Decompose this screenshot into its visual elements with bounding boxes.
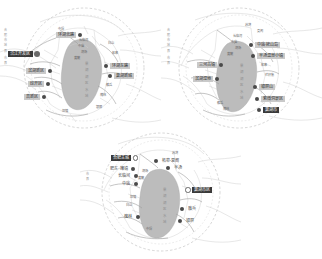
edge-note: 合 肥 市 域 界	[4, 28, 7, 52]
panel-b-label-3[interactable]: 滨湖湿地	[193, 76, 219, 82]
place-name: 长临河	[233, 35, 242, 38]
edge-note: 市 界	[86, 172, 89, 181]
place-name: 中庙	[78, 45, 84, 48]
edge-note: 市 界	[167, 56, 170, 65]
marker-dot-icon	[134, 182, 138, 186]
marker-dot-icon	[180, 207, 184, 211]
panel-a-label-5-text: 巢湖新城	[114, 73, 134, 79]
panel-c-highlight-label[interactable]: 合肥主城	[111, 155, 138, 161]
lake-name-label: 巢 湖 湖 区 水 域	[84, 62, 87, 99]
panel-a-label-4[interactable]: 环湖东路	[104, 63, 130, 69]
marker-dot-icon	[42, 95, 46, 99]
place-name: 散兵	[217, 102, 223, 105]
panel-a-label-2[interactable]: 经开区	[28, 81, 50, 87]
panel-b-label-0-text: 中庙·姥山岛	[255, 42, 281, 48]
place-name: 烔炀	[142, 170, 148, 173]
panel-c-label-3[interactable]: 中庙	[120, 181, 138, 187]
lake-name-label: 巢 湖 湖 区 水 域	[239, 64, 242, 101]
panel-b-label-5-text: 紫微洞景区	[261, 96, 286, 102]
panel-c-label-4-text: 柘皋·夏阁	[160, 158, 182, 164]
map-panel-c: 巢 湖 湖 区 水 域 合肥主城 巢湖市区 肥东·撮镇 长临河 中庙	[80, 132, 241, 256]
panel-b-label-3-text: 滨湖湿地	[193, 76, 213, 82]
place-name: 坝镇	[130, 196, 136, 199]
panel-b-label-5[interactable]: 紫微洞景区	[255, 96, 285, 102]
panel-c-basemap	[80, 132, 241, 256]
place-name: 烔炀	[235, 47, 241, 50]
panel-c-label-3-text: 中庙	[120, 181, 132, 187]
place-name: 柘皋	[112, 52, 118, 55]
marker-dot-icon	[104, 64, 108, 68]
lake-name-label: 巢 湖 湖 区 水 域	[162, 188, 165, 225]
panel-a-label-1[interactable]: 滨湖新区	[26, 68, 52, 74]
marker-ring-icon	[133, 155, 139, 161]
panel-a-label-5[interactable]: 巢湖新城	[108, 73, 134, 79]
panel-a-label-0-text: 环湖北路	[56, 32, 76, 38]
marker-dot-icon	[131, 167, 135, 171]
panel-a-highlight-text: 沿江开发区	[8, 51, 33, 57]
place-name: 白山	[108, 42, 114, 45]
panel-c-label-0[interactable]: 巢湖市区	[185, 187, 212, 193]
panel-c-label-0-text: 巢湖市区	[192, 187, 212, 193]
marker-ring-icon	[185, 187, 191, 193]
place-name: 黄麓	[227, 53, 233, 56]
panel-c-label-1[interactable]: 肥东·撮镇	[108, 166, 135, 172]
panel-c-label-2-text: 长临河	[116, 173, 132, 179]
place-name: 黄麓	[74, 57, 80, 60]
panel-b-label-2-text: 三河古镇	[197, 62, 217, 68]
map-panel-b: 巢 湖 湖 区 水 域 中庙·姥山岛 半汤温泉小镇 三河古镇 滨湖湿地 银	[161, 6, 322, 130]
panel-a-basemap	[0, 6, 161, 130]
panel-a-label-3-text: 高新区	[24, 94, 40, 100]
place-name: 中垾	[146, 228, 152, 231]
place-name: 坝镇	[62, 110, 68, 113]
panel-b-highlight-text: 巢湖市	[263, 107, 279, 113]
panel-c-label-1-text: 肥东·撮镇	[108, 166, 130, 172]
panel-b-label-2[interactable]: 三河古镇	[197, 62, 223, 68]
marker-dot-icon	[48, 69, 52, 73]
panel-a-label-2-text: 经开区	[28, 81, 44, 87]
panel-c-label-6-text: 槐林	[122, 214, 134, 220]
panel-c-label-4[interactable]: 柘皋·夏阁	[154, 158, 181, 164]
place-name: 夏阁	[257, 30, 263, 33]
panel-a-label-1-text: 滨湖新区	[26, 68, 46, 74]
place-name: 柘皋	[261, 64, 267, 67]
panel-c-highlight-text: 合肥主城	[111, 155, 131, 161]
panel-c-label-7[interactable]: 散兵	[180, 206, 198, 212]
panel-c-label-5[interactable]: 半汤	[166, 165, 184, 171]
marker-dot-icon	[215, 77, 219, 81]
panel-b-label-1[interactable]: 半汤温泉小镇	[251, 53, 285, 59]
panel-c-label-7-text: 散兵	[186, 206, 198, 212]
panel-c-label-6[interactable]: 槐林	[122, 214, 140, 220]
place-name: 苏湾	[245, 24, 251, 27]
place-name: 长临河	[79, 39, 88, 42]
edge-note: 市 界	[4, 56, 7, 65]
panel-b-label-0[interactable]: 中庙·姥山岛	[249, 42, 280, 48]
marker-dot-icon	[251, 54, 255, 58]
panel-a-label-4-text: 环湖东路	[110, 63, 130, 69]
panel-a-label-3[interactable]: 高新区	[24, 94, 46, 100]
map-panel-a: 巢 湖 湖 区 水 域 沿江开发区 环湖北路 滨湖新区 经开区 高新区	[0, 6, 161, 130]
marker-dot-icon	[253, 85, 257, 89]
panel-c-label-5-text: 半汤	[172, 165, 184, 171]
panel-b-highlight-label[interactable]: 巢湖市	[257, 107, 279, 113]
panel-b-label-4-text: 银屏山	[259, 84, 275, 90]
marker-dot-icon	[255, 97, 259, 101]
panel-c-label-8[interactable]: 银屏	[178, 218, 196, 224]
place-name: 散兵	[106, 84, 112, 87]
marker-dot-icon	[78, 33, 82, 37]
marker-dot-icon	[46, 82, 50, 86]
marker-dot-icon	[219, 63, 223, 67]
figure-canvas: 巢 湖 湖 区 水 域 沿江开发区 环湖北路 滨湖新区 经开区 高新区	[0, 0, 322, 259]
panel-c-label-2[interactable]: 长临河	[116, 173, 138, 179]
place-name: 中垾	[58, 28, 64, 31]
marker-dot-icon	[34, 51, 40, 57]
place-name: 银屏	[96, 106, 102, 109]
panel-b-label-1-text: 半汤温泉小镇	[257, 53, 286, 59]
marker-dot-icon	[178, 219, 182, 223]
marker-dot-icon	[136, 215, 140, 219]
panel-b-label-4[interactable]: 银屏山	[253, 84, 275, 90]
place-name: 中庙	[231, 41, 237, 44]
panel-a-highlight-label[interactable]: 沿江开发区	[8, 51, 40, 57]
marker-dot-icon	[154, 159, 158, 163]
place-name: 槐林	[223, 108, 229, 111]
edge-note: 合 肥 市 域 界	[167, 28, 170, 52]
